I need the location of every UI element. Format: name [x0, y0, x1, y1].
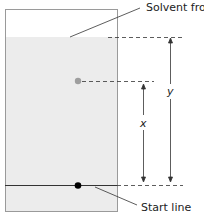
start-dot: [75, 182, 82, 189]
solvent-wet-region: [6, 37, 117, 211]
y-distance-arrow: [169, 38, 173, 182]
solvent-front-label: Solvent front: [146, 2, 204, 13]
start-line-label: Start line: [141, 202, 191, 213]
sample-spot: [75, 78, 81, 84]
y-label: y: [167, 86, 174, 97]
chromatography-diagram: Solvent front Start line x y: [0, 0, 204, 220]
x-label: x: [140, 118, 147, 129]
diagram-graphic: [0, 0, 204, 220]
x-distance-arrow: [142, 84, 146, 182]
